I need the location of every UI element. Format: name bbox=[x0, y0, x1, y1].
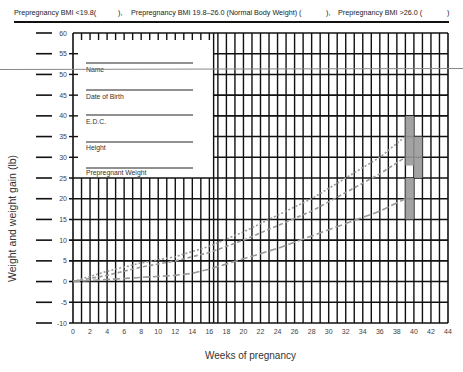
target-range-bar bbox=[405, 116, 414, 166]
x-tick-label: 44 bbox=[444, 328, 452, 335]
y-tick-label: 35 bbox=[59, 133, 67, 140]
y-tick-label: 40 bbox=[59, 112, 67, 119]
x-tick-label: 10 bbox=[154, 328, 162, 335]
field-dob-label: Date of Birth bbox=[86, 93, 124, 100]
y-tick-label: 30 bbox=[59, 154, 67, 161]
y-tick-label: 25 bbox=[59, 175, 67, 182]
x-tick-label: 22 bbox=[257, 328, 265, 335]
y-tick-label: 50 bbox=[59, 71, 67, 78]
x-tick-label: 32 bbox=[342, 328, 350, 335]
x-tick-label: 38 bbox=[393, 328, 401, 335]
x-tick-label: 20 bbox=[240, 328, 248, 335]
x-tick-label: 30 bbox=[325, 328, 333, 335]
x-axis-label: Weeks of pregnancy bbox=[205, 350, 296, 361]
y-tick-label: 45 bbox=[59, 92, 67, 99]
y-tick-label: 15 bbox=[59, 216, 67, 223]
y-tick-label: 10 bbox=[59, 237, 67, 244]
y-tick-label: 5 bbox=[63, 257, 67, 264]
x-tick-label: 28 bbox=[308, 328, 316, 335]
x-tick-label: 36 bbox=[376, 328, 384, 335]
x-tick-label: 18 bbox=[223, 328, 231, 335]
weight-gain-chart: 605550454035302520151050-5-1002468101214… bbox=[0, 0, 463, 372]
x-tick-label: 26 bbox=[291, 328, 299, 335]
x-tick-label: 34 bbox=[359, 328, 367, 335]
x-tick-label: 12 bbox=[171, 328, 179, 335]
field-edc-label: E.D.C. bbox=[86, 118, 106, 125]
y-tick-label: -5 bbox=[61, 299, 67, 306]
target-range-bar bbox=[414, 137, 423, 178]
x-tick-label: 6 bbox=[122, 328, 126, 335]
y-tick-label: 0 bbox=[63, 278, 67, 285]
field-prepregnant-weight-label: Prepregnant Weight bbox=[86, 169, 146, 176]
x-tick-label: 24 bbox=[274, 328, 282, 335]
x-tick-label: 42 bbox=[427, 328, 435, 335]
y-axis-label: Weight and weight gain (lb) bbox=[6, 155, 18, 282]
y-tick-label: 55 bbox=[59, 50, 67, 57]
x-tick-label: 8 bbox=[139, 328, 143, 335]
x-tick-label: 0 bbox=[71, 328, 75, 335]
x-tick-label: 16 bbox=[205, 328, 213, 335]
y-tick-label: 20 bbox=[59, 195, 67, 202]
field-height-label: Height bbox=[86, 144, 106, 151]
y-tick-label: 60 bbox=[59, 30, 67, 37]
weight-gain-curve-dotted bbox=[73, 137, 405, 282]
x-tick-label: 40 bbox=[410, 328, 418, 335]
target-range-bar bbox=[405, 178, 414, 219]
x-tick-label: 14 bbox=[188, 328, 196, 335]
y-tick-label: -10 bbox=[57, 320, 67, 327]
x-tick-label: 4 bbox=[105, 328, 109, 335]
x-tick-label: 2 bbox=[88, 328, 92, 335]
